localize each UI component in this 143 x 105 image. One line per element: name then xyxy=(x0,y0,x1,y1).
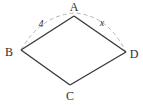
arc-measure-left: 4 xyxy=(39,18,44,29)
vertex-label-a: A xyxy=(70,0,79,14)
edge-ab xyxy=(21,16,74,50)
quadrilateral-diagram: A B C D 4 x xyxy=(0,0,143,105)
edge-bc xyxy=(21,50,70,85)
vertex-label-b: B xyxy=(5,45,13,59)
vertex-label-c: C xyxy=(66,89,74,103)
vertex-label-d: D xyxy=(130,47,139,61)
geometry-figure: A B C D 4 x xyxy=(0,0,143,105)
arc-measure-right: x xyxy=(99,17,105,28)
compass-arc xyxy=(21,13,126,52)
edge-cd xyxy=(70,52,126,85)
